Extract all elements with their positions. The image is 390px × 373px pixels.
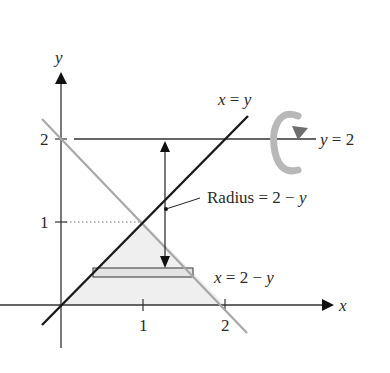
x-axis-label: x	[338, 296, 347, 315]
label-y-equals-2: y = 2	[318, 130, 354, 149]
volume-of-revolution-diagram: y x 1 2 1 2 x = y y = 2 Radius = 2 − y x…	[0, 0, 390, 373]
rotation-arrow-icon	[274, 114, 308, 171]
y-tick-label-2: 2	[40, 130, 49, 149]
y-axis-arrowhead	[55, 72, 67, 84]
representative-rectangle	[93, 268, 193, 277]
y-tick-label-1: 1	[40, 213, 49, 232]
label-x-equals-2-minus-y: x = 2 − y	[213, 268, 274, 287]
shaded-region	[61, 222, 225, 305]
x-tick-label-2: 2	[221, 316, 230, 335]
label-x-equals-y: x = y	[217, 90, 252, 109]
x-tick-label-1: 1	[139, 316, 148, 335]
radius-leader-line	[166, 198, 200, 209]
radius-arrow-head-top	[160, 141, 170, 152]
label-radius: Radius = 2 − y	[207, 188, 307, 207]
x-axis-arrowhead	[322, 299, 334, 311]
y-axis-label: y	[53, 48, 63, 67]
